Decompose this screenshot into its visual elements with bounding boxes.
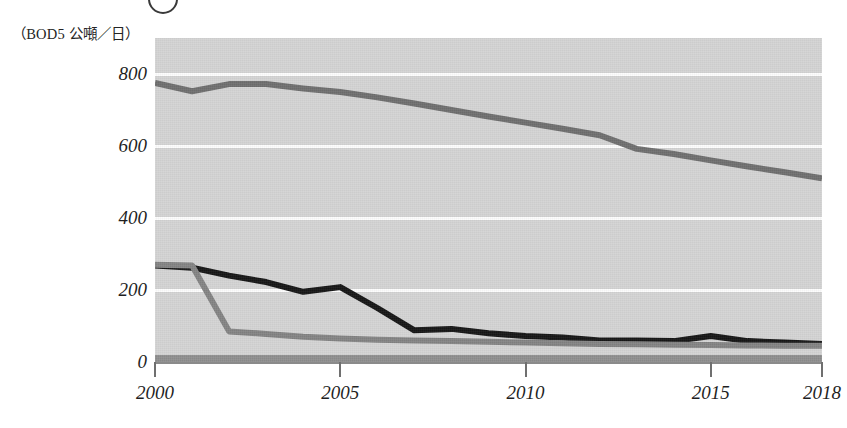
y-tick-label-0: 0 bbox=[89, 352, 147, 371]
x-tick-label-2018: 2018 bbox=[777, 383, 847, 403]
plot-area bbox=[155, 38, 822, 362]
y-tick-label-400: 400 bbox=[89, 208, 147, 227]
x-tick-label-2015: 2015 bbox=[666, 383, 756, 403]
x-tick-mark-2000 bbox=[154, 362, 156, 377]
x-axis-line bbox=[155, 362, 822, 364]
x-tick-mark-2005 bbox=[339, 362, 341, 377]
series-line-upper-series bbox=[155, 83, 822, 178]
x-tick-mark-2015 bbox=[710, 362, 712, 377]
circled-number-marker bbox=[148, 0, 178, 14]
data-series-layer bbox=[155, 38, 822, 362]
x-tick-label-2010: 2010 bbox=[481, 383, 571, 403]
y-axis-tick-labels: 0200400600800 bbox=[85, 38, 147, 362]
x-tick-label-2000: 2000 bbox=[110, 383, 200, 403]
x-tick-mark-2010 bbox=[525, 362, 527, 377]
chart-figure: （BOD5 公噸／日） 0200400600800 20002005201020… bbox=[0, 0, 847, 428]
y-tick-label-800: 800 bbox=[89, 64, 147, 83]
x-tick-mark-2018 bbox=[821, 362, 823, 377]
y-tick-label-600: 600 bbox=[89, 136, 147, 155]
x-tick-label-2005: 2005 bbox=[295, 383, 385, 403]
y-tick-label-200: 200 bbox=[89, 280, 147, 299]
